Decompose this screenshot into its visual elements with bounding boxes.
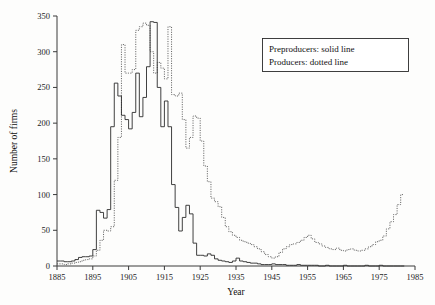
y-axis-title: Number of firms	[9, 109, 19, 173]
line-chart: 050100150200250300350 188518951905191519…	[0, 0, 435, 305]
x-tick-label: 1915	[156, 272, 173, 282]
x-tick-label: 1905	[120, 272, 137, 282]
x-axis-ticks: 1885189519051915192519351945195519651975…	[49, 266, 424, 282]
x-tick-label: 1955	[299, 272, 316, 282]
x-tick-label: 1965	[335, 272, 352, 282]
x-tick-label: 1935	[228, 272, 245, 282]
legend-entry-preproducers: Preproducers: solid line	[269, 44, 354, 54]
legend-entry-producers: Producers: dotted line	[269, 57, 348, 67]
y-tick-label: 200	[37, 118, 50, 128]
y-axis-ticks: 050100150200250300350	[37, 11, 57, 271]
y-tick-label: 250	[37, 82, 50, 92]
y-tick-label: 150	[37, 154, 50, 164]
y-tick-label: 50	[42, 225, 51, 235]
x-tick-label: 1985	[407, 272, 424, 282]
x-tick-label: 1975	[371, 272, 388, 282]
chart-figure: 050100150200250300350 188518951905191519…	[0, 0, 435, 305]
x-axis-title: Year	[227, 287, 245, 297]
y-tick-label: 300	[37, 47, 50, 57]
x-tick-label: 1925	[192, 272, 209, 282]
legend: Preproducers: solid line Producers: dott…	[263, 39, 409, 72]
x-tick-label: 1885	[49, 272, 66, 282]
y-tick-label: 350	[37, 11, 50, 21]
x-tick-label: 1895	[84, 272, 101, 282]
y-tick-label: 100	[37, 190, 50, 200]
y-tick-label: 0	[46, 261, 50, 271]
x-tick-label: 1945	[263, 272, 280, 282]
